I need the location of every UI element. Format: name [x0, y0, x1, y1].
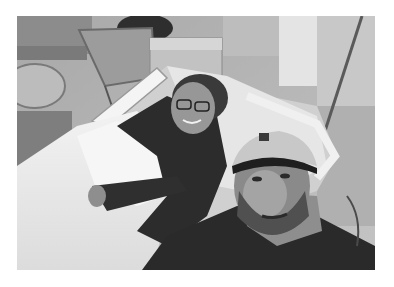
photo-scene: [17, 16, 375, 270]
hospital-selfie-photo: Black-and-white selfie in a hospital roo…: [17, 16, 375, 270]
